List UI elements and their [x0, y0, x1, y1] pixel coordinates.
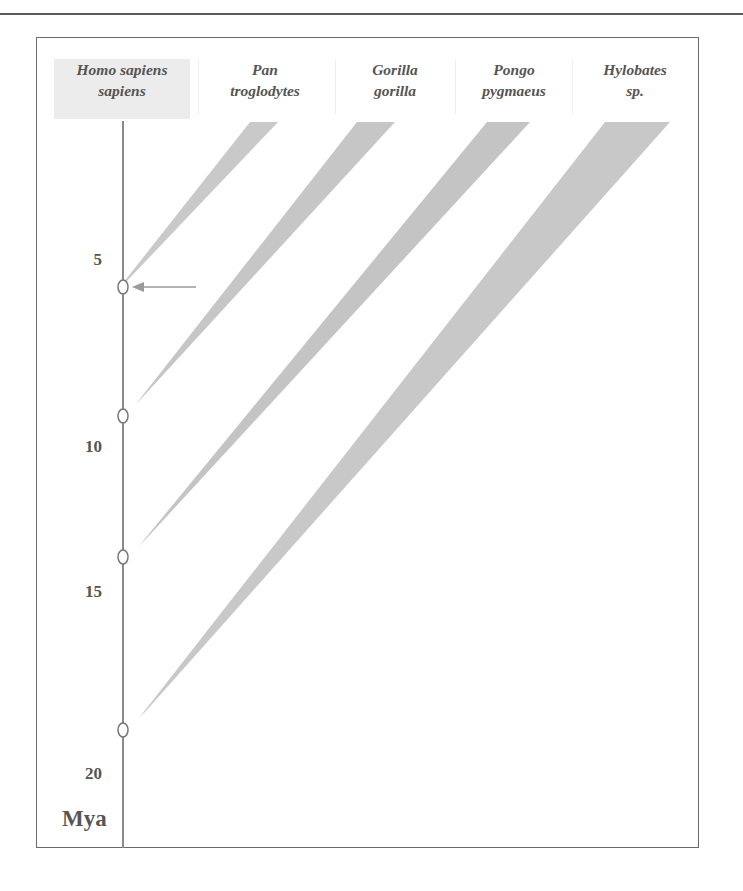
- tick-label-20: 20: [62, 764, 102, 784]
- wedge-hylobates: [139, 122, 670, 718]
- phylogeny-diagram: [0, 0, 743, 891]
- arrow-left-icon: [132, 282, 196, 292]
- wedge-gorilla: [136, 122, 395, 404]
- axis-unit-label: Mya: [62, 806, 107, 832]
- divergence-node: [118, 550, 128, 564]
- tick-label-15: 15: [62, 582, 102, 602]
- divergence-node: [118, 280, 128, 294]
- divergence-node: [118, 723, 128, 737]
- divergence-node: [118, 409, 128, 423]
- tick-label-10: 10: [62, 437, 102, 457]
- tick-label-5: 5: [62, 250, 102, 270]
